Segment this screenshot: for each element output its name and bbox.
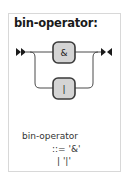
choice-node-pipe: | [53,78,75,99]
end-marker-icon [101,48,112,56]
svg-text:&: & [60,48,67,58]
svg-text:|: | [62,84,65,94]
grammar-alternative: | '|' [57,156,71,166]
choice-node-ampersand: & [53,42,75,63]
grammar-rule-name: bin-operator [22,131,78,141]
start-marker-icon [16,48,26,56]
grammar-definition: ::= '&' [52,144,80,154]
